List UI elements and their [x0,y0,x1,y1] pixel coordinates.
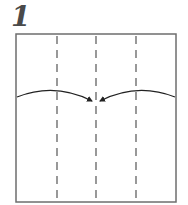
fold-diagram [0,0,188,205]
